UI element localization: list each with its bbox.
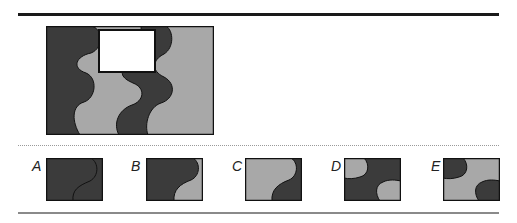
bottom-divider: [18, 212, 499, 214]
option-label-b: B: [131, 158, 140, 174]
top-divider: [18, 13, 499, 16]
option-label-d: D: [331, 158, 341, 174]
option-c-image[interactable]: [245, 158, 302, 201]
option-d-image[interactable]: [344, 158, 401, 201]
puzzle-main-figure: [46, 26, 214, 135]
wavy-stripes-pattern: [46, 26, 214, 135]
option-label-e: E: [431, 158, 440, 174]
option-a-image[interactable]: [46, 158, 103, 201]
option-label-a: A: [32, 158, 41, 174]
missing-piece-blank: [99, 30, 155, 72]
option-label-c: C: [232, 158, 242, 174]
option-b-image[interactable]: [146, 158, 203, 201]
option-e-image[interactable]: [443, 158, 500, 201]
dotted-divider: [18, 145, 499, 146]
